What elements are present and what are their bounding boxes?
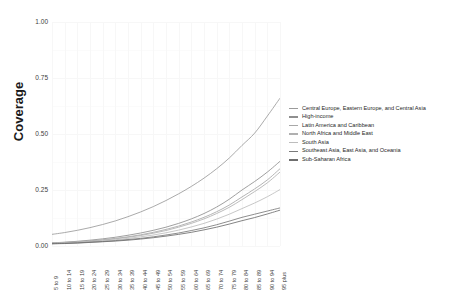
series-line — [52, 169, 280, 243]
legend-item[interactable]: High-income — [289, 113, 451, 122]
series-line — [52, 98, 280, 234]
legend-item[interactable]: Sub-Saharan Africa — [289, 156, 451, 165]
legend-label: Central Europe, Eastern Europe, and Cent… — [302, 106, 426, 112]
y-tick-label: 1.00 — [12, 19, 48, 26]
legend-label: Sub-Saharan Africa — [302, 157, 351, 163]
legend-line-swatch — [289, 159, 298, 160]
legend-label: High-income — [302, 114, 333, 120]
x-axis-tick-labels: 5 to 910 to 1415 to 1920 to 2425 to 2930… — [52, 248, 280, 294]
chart-figure: Coverage 1.000.750.500.250.00 5 to 910 t… — [0, 0, 454, 294]
series-lines — [52, 22, 280, 246]
legend-line-swatch — [289, 116, 298, 117]
legend-item[interactable]: North Africa and Middle East — [289, 130, 451, 139]
x-tick-label: 5 to 9 — [54, 276, 60, 290]
legend-line-swatch — [289, 142, 298, 143]
x-tick-label: 15 to 19 — [80, 270, 86, 290]
x-tick-label: 60 to 64 — [194, 270, 200, 290]
legend-line-swatch — [289, 125, 298, 126]
x-tick-label: 75 to 79 — [232, 270, 238, 290]
x-tick-label: 25 to 29 — [105, 270, 111, 290]
legend-line-swatch — [289, 151, 298, 152]
legend-item[interactable]: South Asia — [289, 138, 451, 147]
x-tick-label: 35 to 39 — [130, 270, 136, 290]
x-tick-label: 80 to 84 — [244, 270, 250, 290]
y-tick-label: 0.00 — [12, 243, 48, 250]
x-tick-label: 85 to 89 — [257, 270, 263, 290]
legend-label: North Africa and Middle East — [302, 131, 373, 137]
legend-line-swatch — [289, 133, 298, 134]
y-tick-label: 0.75 — [12, 75, 48, 82]
legend-item[interactable]: Latin America and Caribbean — [289, 121, 451, 130]
series-line — [52, 208, 280, 244]
legend-item[interactable]: Southeast Asia, East Asia, and Oceania — [289, 147, 451, 156]
x-tick-label: 20 to 24 — [92, 270, 98, 290]
legend-label: South Asia — [302, 140, 329, 146]
x-tick-label: 65 to 69 — [206, 270, 212, 290]
gridline-horizontal — [52, 246, 280, 247]
x-tick-label: 10 to 14 — [67, 270, 73, 290]
y-axis-tick-labels: 1.000.750.500.250.00 — [10, 0, 48, 294]
legend-label: Southeast Asia, East Asia, and Oceania — [302, 148, 401, 154]
plot-area — [52, 22, 280, 246]
legend-item[interactable]: Central Europe, Eastern Europe, and Cent… — [289, 104, 451, 113]
legend-label: Latin America and Caribbean — [302, 123, 374, 129]
y-tick-label: 0.25 — [12, 187, 48, 194]
gridline-vertical — [280, 22, 281, 246]
x-tick-label: 40 to 44 — [143, 270, 149, 290]
x-tick-label: 55 to 59 — [181, 270, 187, 290]
x-tick-label: 45 to 49 — [156, 270, 162, 290]
x-tick-label: 95 plus — [282, 272, 288, 290]
legend-line-swatch — [289, 108, 298, 109]
x-tick-label: 30 to 34 — [118, 270, 124, 290]
legend: Central Europe, Eastern Europe, and Cent… — [289, 104, 451, 164]
x-tick-label: 70 to 74 — [219, 270, 225, 290]
x-tick-label: 90 to 94 — [270, 270, 276, 290]
y-tick-label: 0.50 — [12, 131, 48, 138]
x-tick-label: 50 to 54 — [168, 270, 174, 290]
